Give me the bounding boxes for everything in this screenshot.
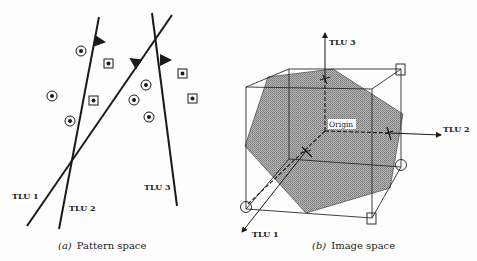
square-pattern-icon bbox=[89, 96, 98, 105]
tlu1-line bbox=[27, 15, 172, 226]
circle-pattern-icon bbox=[65, 116, 75, 126]
origin-label: Origin bbox=[329, 120, 353, 129]
circle-pattern-icon bbox=[47, 91, 57, 101]
shaded-region bbox=[245, 69, 403, 213]
tlu3-line bbox=[152, 13, 177, 206]
axis-label-tlu3: TLU 3 bbox=[329, 37, 356, 47]
corner-circle-icon bbox=[241, 202, 252, 213]
panel-a-caption: (a)Pattern space bbox=[58, 240, 146, 251]
panel-b-caption: (b)Image space bbox=[312, 240, 395, 251]
circle-pattern-icon bbox=[76, 46, 86, 56]
tlu2-label: TLU 2 bbox=[69, 203, 95, 213]
circle-pattern-icon bbox=[144, 112, 154, 122]
square-pattern-icon bbox=[188, 94, 197, 103]
tlu1-direction-arrow-icon bbox=[131, 59, 137, 63]
tlu3-label: TLU 3 bbox=[144, 182, 171, 192]
circle-pattern-icon bbox=[129, 95, 139, 105]
axis-label-tlu1: TLU 1 bbox=[252, 229, 278, 239]
corner-square-icon bbox=[367, 213, 376, 224]
figure: TLU 1 TLU 2 TLU 3 (a)Pattern space bbox=[0, 0, 477, 261]
tlu1-label: TLU 1 bbox=[12, 191, 38, 201]
square-pattern-icon bbox=[178, 69, 187, 78]
panel-pattern-space: TLU 1 TLU 2 TLU 3 (a)Pattern space bbox=[12, 13, 197, 251]
panel-image-space: Origin TLU 3 TLU 2 TLU 1 (b)Image space bbox=[241, 33, 470, 251]
circle-pattern-icon bbox=[141, 80, 151, 90]
tlu2-direction-arrow-icon bbox=[96, 41, 104, 42]
axis-label-tlu2: TLU 2 bbox=[443, 124, 469, 134]
square-pattern-icon bbox=[104, 59, 113, 68]
figure-canvas: TLU 1 TLU 2 TLU 3 (a)Pattern space bbox=[0, 0, 477, 261]
